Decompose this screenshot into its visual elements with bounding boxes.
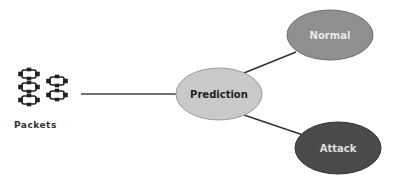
prediction-label: Prediction — [190, 89, 248, 100]
diagram-canvas: Prediction Normal Attack — [0, 0, 400, 183]
normal-label: Normal — [310, 30, 351, 41]
attack-label: Attack — [320, 143, 357, 154]
edge-prediction-attack — [244, 115, 303, 135]
network-packets-icon — [19, 69, 67, 106]
edge-prediction-normal — [244, 52, 296, 73]
packets-label: Packets — [14, 120, 57, 130]
